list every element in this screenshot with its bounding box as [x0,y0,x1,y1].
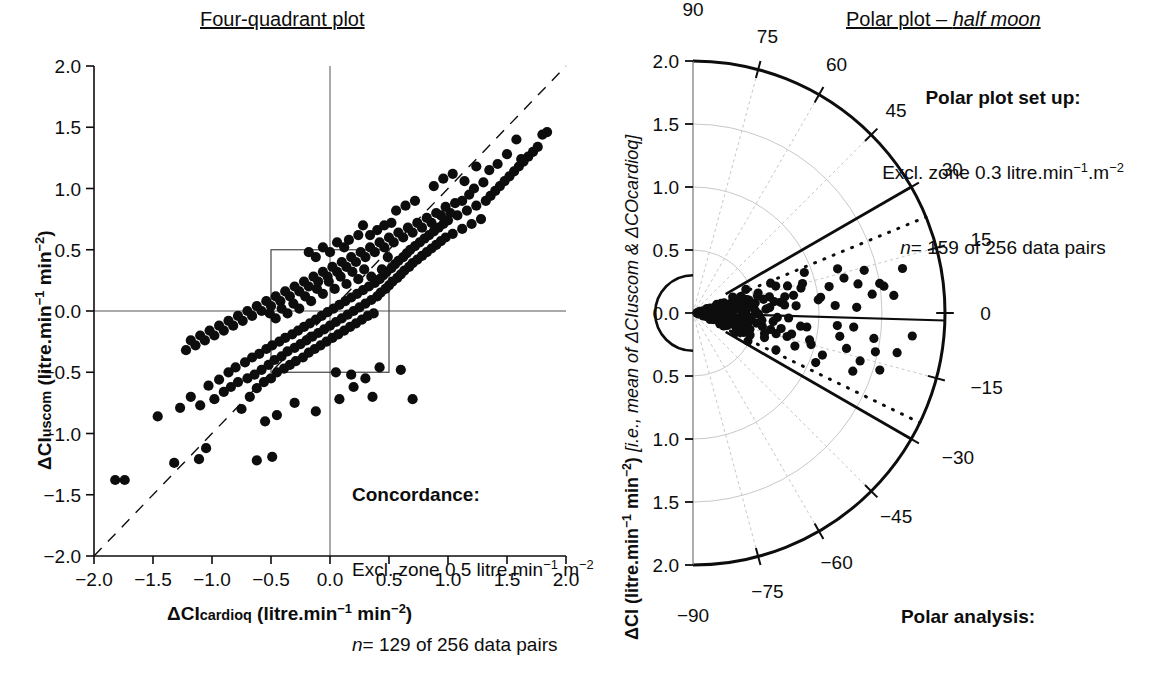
data-point [300,291,310,301]
data-point [771,282,780,291]
x-tick-label: −0.5 [252,569,290,590]
data-point [223,316,233,326]
data-point [377,264,387,274]
data-point [242,306,252,316]
y-tick-label: 1.5 [55,117,81,138]
angle-tick-label: 75 [757,26,778,47]
data-point [318,242,328,252]
data-point [233,311,243,321]
radial-tick-label: 0.5 [653,366,679,387]
data-point [484,165,494,175]
data-point [252,455,262,465]
data-point [324,277,334,287]
data-point [336,272,346,282]
data-point [214,321,224,331]
data-point [784,313,793,322]
angle-tick-label: −45 [880,506,912,527]
polar-setup-n: n= 159 of 256 data pairs [838,235,1168,260]
radial-tick-label: 2.0 [653,555,679,576]
data-point [403,223,413,233]
data-point [533,142,543,152]
data-point [856,356,865,365]
data-point [261,296,271,306]
data-point [260,416,270,426]
data-point [175,403,185,413]
data-point [542,127,552,137]
radial-tick-label: 1.0 [653,177,679,198]
data-point [871,347,880,356]
data-point [796,322,805,331]
data-point [245,392,255,402]
radial-tick-label: 1.5 [653,114,679,135]
polar-analysis-annotation: Polar analysis: Angular bias = −1.7 degr… [766,554,1170,684]
data-point [194,454,204,464]
data-point [393,228,403,238]
data-point [893,348,902,357]
concordance-n: n= 129 of 256 data pairs [352,632,594,657]
data-point [110,475,120,485]
data-point [448,169,458,179]
data-point [780,292,789,301]
data-point [153,411,163,421]
data-point [790,342,799,351]
four-quadrant-panel: Four-quadrant plot −2.0−1.5−1.0−0.50.00.… [0,0,600,684]
data-point [773,313,782,322]
y-tick-label: −1.5 [43,485,81,506]
data-point [181,345,191,355]
data-point [383,252,393,262]
data-point [277,304,287,314]
radial-tick-label: 0.5 [653,240,679,261]
data-point [875,366,884,375]
data-point [869,334,878,343]
data-point [816,293,825,302]
data-point [214,375,224,385]
data-point [299,277,309,287]
data-point [818,351,827,360]
data-point [209,394,219,404]
data-point [800,268,809,277]
angle-tick-label: −90 [677,605,709,626]
angle-tick-label: −30 [942,447,974,468]
polar-setup-heading: Polar plot set up: [838,85,1168,110]
data-point [252,301,262,311]
data-point [842,344,851,353]
data-point [770,297,779,306]
data-point [327,262,337,272]
data-point [408,394,418,404]
data-point [280,286,290,296]
data-point [186,335,196,345]
data-point [746,330,755,339]
data-point [384,232,394,242]
data-point [448,229,458,239]
data-point [783,281,792,290]
data-point [346,252,356,262]
data-point [438,174,448,184]
data-point [366,272,376,282]
data-point [771,345,780,354]
data-point [356,247,366,257]
data-point [331,367,341,377]
data-point [410,196,420,206]
left-panel-title: Four-quadrant plot [200,8,365,31]
polar-setup-annotation: Polar plot set up: Excl. zone 0.3 litre.… [838,35,1168,310]
data-point [267,452,277,462]
data-point [462,206,472,216]
polar-panel-title: Polar plot – half moon [846,8,1041,31]
data-point [412,218,422,228]
data-point [186,392,196,402]
x-tick-label: −1.0 [193,569,231,590]
data-point [396,365,406,375]
data-point [516,154,526,164]
concordance-excl-zone: Excl. zone 0.5 litre.min−1.m−2 [352,557,594,582]
polar-setup-excl-zone: Excl. zone 0.3 litre.min−1.m−2 [838,160,1168,185]
data-point [195,400,205,410]
y-tick-label: 0.5 [55,240,81,261]
data-point [457,224,467,234]
data-point [476,214,486,224]
x-tick-label: −2.0 [75,569,113,590]
data-point [347,267,357,277]
data-point [780,300,789,309]
left-y-axis-label: ΔCIuscom (litre.min−1 min−2) [34,230,56,470]
data-point [450,198,460,208]
angle-tick-label: 90 [682,0,703,20]
